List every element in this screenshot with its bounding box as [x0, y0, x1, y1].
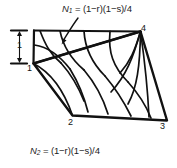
- element-contour-drawing: [0, 0, 177, 168]
- equation-n1-symbol: N: [62, 3, 69, 14]
- node-label-1: 1: [27, 64, 32, 73]
- equation-n2-symbol: N: [30, 145, 37, 156]
- equation-n2-subscript: 2: [37, 149, 41, 156]
- shape-function-contours: [34, 31, 152, 118]
- equation-n2: N2 = (1−r)(1−s)/4: [30, 146, 100, 157]
- element-outline: [34, 32, 168, 121]
- node-label-2: 2: [68, 118, 73, 127]
- node-label-3: 3: [160, 122, 165, 131]
- equation-n1-expression: = (1−r)(1−s)/4: [75, 3, 132, 14]
- figure-canvas: N1 = (1−r)(1−s)/4 N2 = (1−r)(1−s)/4 1 1 …: [0, 0, 177, 168]
- dimension-label: 1: [17, 41, 22, 50]
- equation-n1-subscript: 1: [69, 7, 73, 14]
- equation-n2-expression: = (1−r)(1−s)/4: [43, 145, 100, 156]
- node-label-4: 4: [141, 24, 146, 33]
- equation-n1: N1 = (1−r)(1−s)/4: [62, 4, 132, 15]
